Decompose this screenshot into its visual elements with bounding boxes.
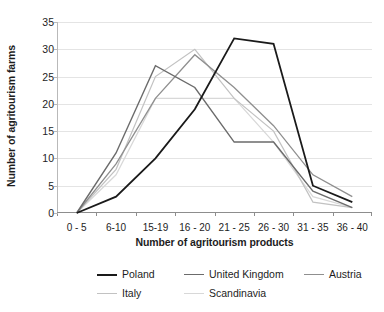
y-axis-tick-label: 30 — [28, 44, 54, 55]
chart-container: Number of agritourism farms 051015202530… — [0, 0, 384, 312]
legend-line-swatch — [304, 274, 324, 275]
plot-area — [57, 22, 372, 213]
y-axis-tickmark — [54, 131, 58, 132]
legend-line-swatch — [184, 293, 204, 294]
y-axis-tick-label: 10 — [28, 153, 54, 164]
legend-label: United Kingdom — [209, 266, 284, 283]
x-axis-tick-labels: 0 - 56-1015-1916 - 2021 - 2526 - 3031 - … — [57, 222, 372, 236]
series-lines — [57, 22, 372, 213]
y-axis-title: Number of agritourism farms — [2, 0, 20, 232]
chart-legend: PolandUnited KingdomAustria ItalyScandin… — [62, 266, 362, 306]
legend-row: PolandUnited KingdomAustria — [62, 266, 362, 283]
legend-line-swatch — [184, 274, 204, 275]
legend-label: Italy — [122, 285, 141, 302]
legend-line-swatch — [97, 293, 117, 294]
y-axis-tick-label: 5 — [28, 181, 54, 192]
legend-line-swatch — [97, 274, 117, 276]
y-axis-tickmark — [54, 213, 58, 214]
legend-label: Austria — [329, 266, 362, 283]
legend-row: ItalyScandinavia — [62, 285, 362, 302]
series-line-united-kingdom — [77, 66, 353, 213]
legend-label: Scandinavia — [209, 285, 266, 302]
y-axis-tick-labels: 05101520253035 — [28, 14, 54, 220]
y-axis-tick-label: 20 — [28, 99, 54, 110]
x-axis-tick-label: 36 - 40 — [325, 222, 379, 234]
legend-label: Poland — [122, 266, 155, 283]
y-axis-tick-label: 0 — [28, 208, 54, 219]
y-axis-tick-label: 15 — [28, 126, 54, 137]
series-line-poland — [77, 38, 353, 213]
y-axis-tick-label: 25 — [28, 72, 54, 83]
y-axis-tickmark — [54, 22, 58, 23]
y-axis-tickmark — [54, 104, 58, 105]
y-axis-tickmark — [54, 186, 58, 187]
y-axis-tickmark — [54, 77, 58, 78]
x-axis-title: Number of agritourism products — [57, 236, 372, 248]
y-axis-tick-label: 35 — [28, 17, 54, 28]
y-axis-tickmark — [54, 158, 58, 159]
y-axis-tickmark — [54, 49, 58, 50]
